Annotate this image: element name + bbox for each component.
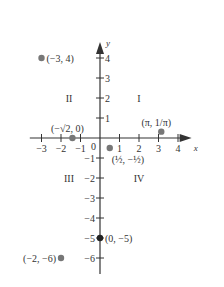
point-label: (−√2, 0) [51, 123, 84, 135]
y-tick-label: 1 [105, 113, 110, 124]
quadrant-label-i: I [137, 93, 140, 104]
y-axis-label: y [105, 38, 110, 48]
y-tick-label: −2 [84, 173, 95, 184]
y-tick-label: −5 [84, 233, 95, 244]
data-point [38, 55, 44, 61]
quadrant-label-iii: III [64, 173, 74, 184]
y-tick-label: −1 [84, 153, 95, 164]
data-point [158, 128, 164, 134]
point-label: (½, −½) [112, 154, 144, 166]
origin-label: 0 [91, 141, 96, 152]
x-tick-label: −2 [56, 143, 67, 154]
data-point [97, 235, 103, 241]
point-label: (−2, −6) [23, 253, 56, 265]
point-label: (π, 1/π) [141, 117, 171, 129]
point-label: (−3, 4) [47, 53, 74, 65]
y-tick-label: 4 [105, 53, 110, 64]
quadrant-label-ii: II [66, 93, 73, 104]
x-tick-label: 2 [137, 143, 142, 154]
y-axis-arrow-icon [96, 42, 104, 54]
quadrant-label-iv: IV [134, 173, 145, 184]
x-axis-label: x [193, 143, 198, 153]
y-tick-label: 2 [105, 93, 110, 104]
x-tick-label: 3 [156, 143, 161, 154]
y-tick-label: −3 [84, 193, 95, 204]
x-tick-label: −3 [36, 143, 47, 154]
coordinate-plane: xy0 −3−2−112344321−1−2−3−4−5−6 IIIIIIIV … [0, 0, 224, 287]
data-point [107, 145, 113, 151]
y-tick-label: −4 [84, 213, 95, 224]
x-tick-label: 4 [176, 143, 181, 154]
point-label: (0, −5) [105, 233, 132, 245]
data-point [58, 255, 64, 261]
y-tick-label: 3 [105, 73, 110, 84]
x-tick-label: 1 [117, 143, 122, 154]
y-tick-label: −6 [84, 253, 95, 264]
data-point [69, 135, 75, 141]
x-axis-arrow-icon [180, 134, 192, 142]
